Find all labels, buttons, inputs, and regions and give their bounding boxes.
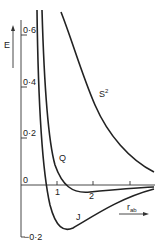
y-label-06: 0·6 xyxy=(23,25,36,35)
y-label-02: 0·2 xyxy=(23,128,36,138)
x-label-1: 1 xyxy=(55,187,60,197)
label-q: Q xyxy=(59,153,66,163)
y-label-0: 0 xyxy=(23,175,28,185)
energy-chart: E 0·6 0·4 0·2 0 −0·2 1 2 S2 Q J rab xyxy=(0,0,162,243)
e-arrow-head-icon xyxy=(11,25,15,31)
label-s2: S2 xyxy=(99,88,109,99)
label-j: J xyxy=(76,212,81,222)
y-label-m02: −0·2 xyxy=(24,232,42,242)
x-arrow-head-icon xyxy=(143,212,149,216)
y-axis-label: E xyxy=(4,40,10,50)
curve-q xyxy=(42,10,154,192)
y-label-04: 0·4 xyxy=(23,77,36,87)
x-axis-label: rab xyxy=(127,202,137,213)
